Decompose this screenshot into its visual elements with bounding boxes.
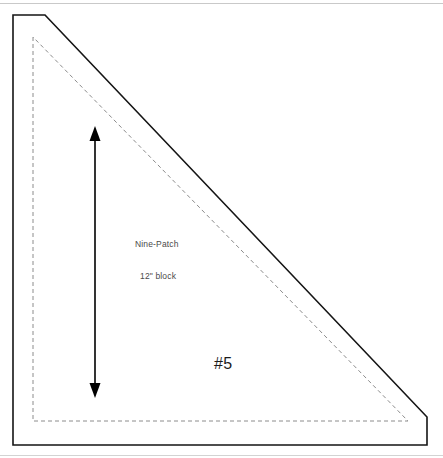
- quilt-template-diagram: [0, 0, 443, 458]
- block-size-label: 12" block: [140, 271, 176, 281]
- piece-number-label: #5: [214, 355, 233, 373]
- template-page: Nine-Patch 12" block #5: [0, 0, 443, 458]
- pattern-name-label: Nine-Patch: [135, 239, 179, 249]
